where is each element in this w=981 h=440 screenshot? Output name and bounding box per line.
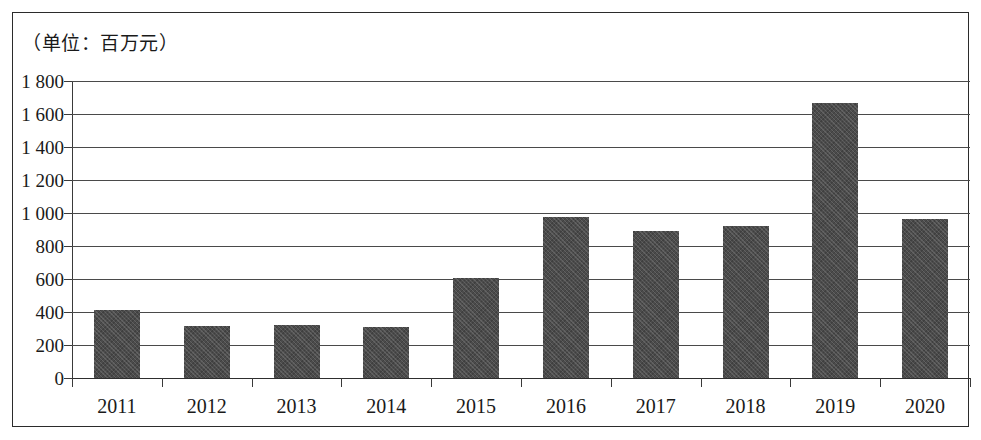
- y-tick-mark: [64, 246, 72, 247]
- y-tick-mark: [64, 81, 72, 82]
- y-tick-label: 400: [4, 303, 64, 322]
- x-tick-label-2020: 2020: [880, 396, 970, 416]
- y-tick-label: 600: [4, 270, 64, 289]
- y-tick-label: 1 000: [4, 204, 64, 223]
- x-tick-label-2014: 2014: [341, 396, 431, 416]
- y-axis-tick-labels: 02004006008001 0001 2001 4001 6001 800: [0, 81, 64, 378]
- y-tick-mark: [64, 345, 72, 346]
- y-tick-mark: [64, 279, 72, 280]
- chart-figure: （单位：百万元） 02004006008001 0001 2001 4001 6…: [0, 0, 981, 440]
- y-tick-label: 1 200: [4, 171, 64, 190]
- x-tick-label-2011: 2011: [72, 396, 162, 416]
- y-tick-mark: [64, 147, 72, 148]
- x-tick-label-2017: 2017: [611, 396, 701, 416]
- y-tick-label: 0: [4, 369, 64, 388]
- y-tick-mark: [64, 378, 72, 379]
- y-tick-mark: [64, 114, 72, 115]
- x-tick-label-2012: 2012: [162, 396, 252, 416]
- y-tick-label: 800: [4, 237, 64, 256]
- y-tick-label: 1 400: [4, 138, 64, 157]
- y-tick-label: 1 800: [4, 72, 64, 91]
- x-tick-label-2015: 2015: [431, 396, 521, 416]
- x-axis-tick-labels: 2011201220132014201520162017201820192020: [72, 0, 970, 440]
- x-tick-label-2013: 2013: [252, 396, 342, 416]
- x-tick-mark: [970, 378, 971, 387]
- y-tick-label: 1 600: [4, 105, 64, 124]
- y-tick-mark: [64, 213, 72, 214]
- y-tick-mark: [64, 180, 72, 181]
- x-tick-label-2019: 2019: [790, 396, 880, 416]
- x-tick-label-2018: 2018: [701, 396, 791, 416]
- y-tick-label: 200: [4, 336, 64, 355]
- x-tick-label-2016: 2016: [521, 396, 611, 416]
- y-tick-mark: [64, 312, 72, 313]
